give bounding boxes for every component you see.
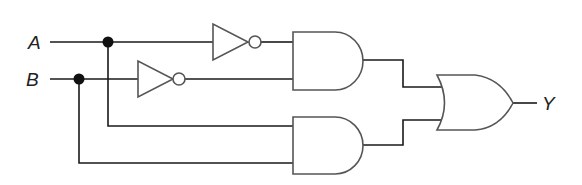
junction-a-icon: [103, 37, 114, 48]
not-bubble-icon: [173, 73, 185, 85]
junction-b-icon: [74, 74, 85, 85]
or-gate: [437, 75, 513, 130]
not-gate-1: [213, 24, 261, 60]
wire-a-branch: [108, 42, 293, 126]
not-gate-2: [138, 61, 185, 97]
input-label-a: A: [27, 32, 41, 53]
wire-b-branch: [79, 79, 293, 163]
not-triangle-icon: [213, 24, 248, 60]
not-bubble-icon: [249, 36, 261, 48]
and-gate-2: [293, 117, 363, 174]
wire-and1-out: [363, 60, 443, 87]
not-triangle-icon: [138, 61, 173, 97]
and-gate-1: [293, 32, 363, 90]
input-label-b: B: [26, 69, 39, 90]
output-label-y: Y: [542, 93, 556, 114]
wire-and2-out: [363, 120, 443, 145]
logic-circuit-diagram: A B Y: [0, 0, 582, 185]
